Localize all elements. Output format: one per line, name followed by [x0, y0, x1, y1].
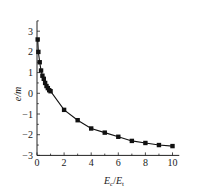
axes: −3−2−101230246810: [22, 21, 179, 169]
y-tick-label: −1: [22, 109, 33, 120]
data-point-marker: [39, 68, 43, 72]
y-tick-label: 2: [28, 46, 33, 57]
y-tick-label: −3: [22, 150, 33, 161]
data-point-marker: [130, 139, 134, 143]
data-point-marker: [36, 50, 40, 54]
data-point-marker: [116, 135, 120, 139]
data-point-marker: [89, 126, 93, 130]
series-line: [38, 39, 173, 146]
data-point-marker: [38, 60, 42, 64]
data-point-marker: [35, 37, 39, 41]
data-series: [35, 37, 174, 148]
data-point-marker: [157, 143, 161, 147]
y-tick-label: −2: [22, 129, 33, 140]
x-tick-label: 6: [116, 157, 121, 168]
x-tick-label: 10: [168, 157, 178, 168]
data-point-marker: [143, 141, 147, 145]
y-tick-label: 1: [28, 67, 33, 78]
y-tick-label: 3: [28, 26, 33, 37]
x-tick-label: 0: [35, 157, 40, 168]
data-point-marker: [62, 108, 66, 112]
x-tick-label: 2: [62, 157, 67, 168]
data-point-marker: [48, 89, 52, 93]
data-point-marker: [42, 77, 46, 81]
x-axis-label: Ec/Et: [103, 175, 124, 188]
chart: −3−2−101230246810 e/m Ec/Et: [0, 0, 197, 194]
x-tick-label: 4: [89, 157, 94, 168]
y-tick-label: 0: [28, 88, 33, 99]
data-point-marker: [103, 130, 107, 134]
x-tick-label: 8: [143, 157, 148, 168]
data-point-marker: [170, 144, 174, 148]
data-point-marker: [75, 118, 79, 122]
y-axis-label: e/m: [12, 87, 23, 101]
